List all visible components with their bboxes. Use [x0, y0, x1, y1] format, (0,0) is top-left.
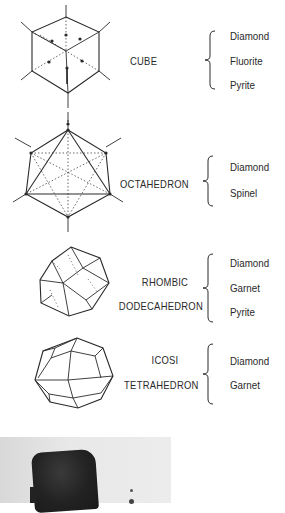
- form-name-dodecahedron: DODECAHEDRON: [119, 300, 199, 312]
- mineral-item: Spinel: [230, 187, 257, 199]
- brace-icon: [201, 253, 215, 323]
- icositetrahedron-diagram-icon: [33, 336, 123, 426]
- mineral-item: Garnet: [230, 379, 260, 391]
- octahedron-diagram-icon: [0, 120, 130, 235]
- speck: [129, 499, 134, 504]
- speck: [130, 489, 133, 492]
- brace-icon: [201, 343, 215, 403]
- mineral-item: Diamond: [230, 257, 269, 269]
- mineral-item: Diamond: [230, 355, 269, 367]
- crystal-shadow: [30, 487, 36, 503]
- mineral-item: Pyrite: [230, 79, 255, 91]
- dark-crystal-shape: [31, 449, 99, 513]
- form-name-cube: CUBE: [130, 55, 157, 67]
- mineral-item: Diamond: [230, 30, 269, 42]
- mineral-item: Diamond: [230, 161, 269, 173]
- mineral-item: Garnet: [230, 282, 260, 294]
- mineral-item: Fluorite: [230, 55, 263, 67]
- brace-icon: [201, 155, 215, 207]
- form-name-tetrahedron: TETRAHEDRON: [124, 379, 198, 391]
- cube-diagram-icon: [0, 0, 120, 125]
- rhombic-dodecahedron-diagram-icon: [38, 245, 118, 325]
- form-name-octahedron: OCTAHEDRON: [120, 178, 189, 190]
- form-name-rhombic: RHOMBIC: [136, 276, 193, 288]
- form-name-icosi: ICOSI: [145, 354, 186, 366]
- mineral-item: Pyrite: [230, 306, 255, 318]
- crystal-photo: [0, 437, 171, 503]
- brace-icon: [203, 30, 217, 90]
